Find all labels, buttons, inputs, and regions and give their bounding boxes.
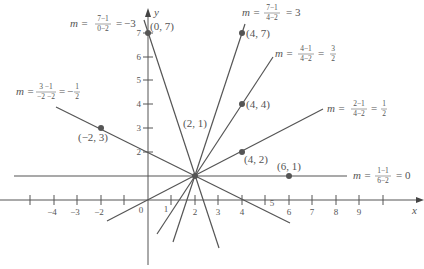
point-2-1	[192, 173, 198, 179]
svg-text:1: 1	[382, 99, 386, 108]
svg-text:2: 2	[382, 109, 386, 118]
svg-text:(−2, 3): (−2, 3)	[78, 131, 108, 144]
svg-text:m =: m =	[70, 17, 88, 29]
svg-text:4: 4	[240, 207, 245, 217]
point-4-4	[239, 101, 245, 107]
svg-text:(0, 7): (0, 7)	[150, 20, 174, 33]
svg-text:3 −1: 3 −1	[39, 82, 53, 91]
svg-text:−2 −2: −2 −2	[37, 92, 55, 101]
svg-text:=: =	[59, 85, 65, 97]
lines	[14, 20, 347, 248]
slope-formula-3: m = 7−1 4−2 = 3	[242, 3, 301, 22]
slope-diagram: −4 −3 −2 0 1 2 3 4 5 6 7 8 9 2 3 4 5 6 7…	[0, 0, 424, 269]
x-tick-labels: −4 −3 −2 0 1 2 3 4 5 6 7 8 9	[47, 198, 362, 217]
x-axis-arrow-icon	[416, 197, 424, 203]
line-slope-neg3	[144, 20, 219, 248]
svg-text:m =: m =	[327, 102, 345, 114]
svg-text:=: =	[286, 6, 292, 18]
svg-text:−3: −3	[124, 17, 136, 29]
svg-text:5: 5	[137, 75, 142, 85]
svg-text:9: 9	[357, 207, 362, 217]
svg-text:6: 6	[287, 207, 292, 217]
y-axis	[145, 8, 151, 265]
svg-text:0−2: 0−2	[97, 24, 109, 33]
svg-text:m =: m =	[353, 169, 371, 181]
svg-text:2−1: 2−1	[353, 99, 365, 108]
svg-text:−4: −4	[47, 207, 57, 217]
svg-text:2: 2	[75, 92, 79, 101]
svg-text:6−2: 6−2	[377, 176, 389, 185]
svg-text:0: 0	[405, 169, 411, 181]
line-slope-neg1-2	[56, 107, 290, 223]
svg-text:3: 3	[331, 44, 335, 53]
svg-text:=: =	[396, 169, 402, 181]
svg-text:4−2: 4−2	[300, 54, 312, 63]
svg-text:=: =	[116, 17, 122, 29]
svg-text:7−1: 7−1	[97, 14, 109, 23]
svg-text:m =: m =	[275, 47, 293, 59]
svg-text:(4, 2): (4, 2)	[244, 153, 268, 166]
svg-text:7−1: 7−1	[266, 3, 278, 12]
slope-formula-1-2: m = 2−1 4−2 = 1 2	[327, 99, 387, 118]
svg-text:7: 7	[310, 207, 315, 217]
slope-formula-neg1-2: m = 3 −1 −2 −2 = − 1 2	[16, 82, 80, 101]
slope-formula-0: m = 1−1 6−2 = 0	[353, 166, 411, 185]
svg-text:4−1: 4−1	[300, 44, 312, 53]
y-tick-labels: 2 3 4 5 6 7	[137, 28, 142, 157]
x-axis	[0, 197, 424, 203]
svg-text:3: 3	[137, 123, 142, 133]
svg-text:4: 4	[137, 99, 142, 109]
svg-text:1: 1	[75, 82, 79, 91]
point-labels: (0, 7) (4, 7) (4, 4) (4, 2) (6, 1) (−2, …	[78, 20, 301, 173]
svg-text:(4, 4): (4, 4)	[246, 98, 270, 111]
x-axis-label: x	[411, 204, 417, 216]
svg-text:8: 8	[334, 207, 339, 217]
svg-text:−2: −2	[94, 207, 104, 217]
svg-text:m =: m =	[16, 85, 34, 97]
line-slope-3	[173, 24, 245, 242]
svg-text:2: 2	[193, 207, 198, 217]
slope-formula-3-2: m = 4−1 4−2 = 3 2	[275, 44, 336, 63]
svg-text:0: 0	[139, 205, 144, 215]
svg-text:3: 3	[295, 6, 301, 18]
svg-text:4−2: 4−2	[266, 13, 278, 22]
svg-text:7: 7	[137, 28, 142, 38]
slope-formula-neg3: m = 7−1 0−2 = −3	[70, 14, 136, 33]
svg-text:3: 3	[216, 207, 221, 217]
svg-text:−3: −3	[70, 207, 80, 217]
y-axis-arrow-icon	[145, 8, 151, 17]
svg-text:(6, 1): (6, 1)	[277, 160, 301, 173]
point-6-1	[286, 173, 292, 179]
svg-text:=: =	[371, 102, 377, 114]
svg-text:(2, 1): (2, 1)	[183, 117, 207, 130]
svg-text:(4, 7): (4, 7)	[246, 27, 270, 40]
svg-text:=: =	[318, 47, 324, 59]
svg-text:5: 5	[270, 198, 275, 208]
svg-text:4−2: 4−2	[353, 109, 365, 118]
point-4-7	[239, 30, 245, 36]
svg-text:1−1: 1−1	[377, 166, 389, 175]
svg-text:2: 2	[331, 54, 335, 63]
svg-text:−: −	[67, 85, 73, 97]
svg-text:6: 6	[137, 52, 142, 62]
svg-text:1: 1	[164, 204, 169, 214]
y-axis-label: y	[153, 6, 159, 18]
svg-text:m =: m =	[242, 6, 260, 18]
